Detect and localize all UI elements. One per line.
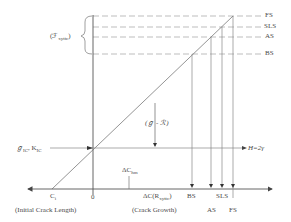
arrowhead-bs <box>190 184 194 188</box>
gamma-close: ) <box>68 32 70 40</box>
arrowhead-sls <box>220 184 224 188</box>
x-left-label: (Initial Crack Length) <box>15 207 76 214</box>
delta-c-r-close: ) <box>169 192 171 200</box>
level-label-as: AS <box>265 33 274 40</box>
arrowhead-as <box>209 184 213 188</box>
energy-release-line <box>52 16 233 189</box>
marker-label-as: AS <box>207 207 216 214</box>
level-lines <box>93 16 262 54</box>
k-ic-symbol: , K <box>28 144 37 152</box>
gic-arrowhead <box>87 146 93 150</box>
origin-label: 0 <box>91 194 95 201</box>
marker-label-sls: SLS <box>216 193 228 200</box>
delta-c-hm-label: ΔChm <box>122 167 138 175</box>
h-label: H=2γ <box>248 145 264 152</box>
level-label-sls: SLS <box>264 23 276 30</box>
gamma-bracket-label: (ℱxyttc) <box>50 33 71 41</box>
gic-kic-label: ℊIC, KIC <box>16 145 42 153</box>
difference-arrowhead <box>153 143 157 147</box>
h-arrowhead <box>242 146 247 150</box>
delta-c-r-label: ΔC(Rxyttc) <box>143 193 172 201</box>
drop-arrowheads <box>190 184 235 188</box>
gamma-sub: xyttc <box>58 36 68 41</box>
g-ic-symbol: ℊ <box>16 144 23 152</box>
delta-c-hm-sub: hm <box>131 170 137 175</box>
drop-lines <box>192 16 233 198</box>
gamma-brace <box>81 16 92 54</box>
delta-c-r-sub: xyttc <box>159 196 169 201</box>
marker-label-fs: FS <box>229 207 237 214</box>
c-i-sub: i <box>55 196 56 201</box>
marker-label-bs: BS <box>187 193 196 200</box>
level-label-bs: BS <box>265 50 274 57</box>
initial-crack-marker: Ci <box>50 193 56 201</box>
difference-label: (ℊ - ℛ) <box>145 120 169 127</box>
delta-c-symbol: ΔC <box>122 166 131 174</box>
level-label-fs: FS <box>265 12 273 19</box>
x-right-label: (Crack Growth) <box>132 207 177 214</box>
k-ic-sub: IC <box>37 148 42 153</box>
diagram-canvas <box>0 0 291 222</box>
arrowhead-fs <box>231 184 235 188</box>
delta-c-r-symbol: ΔC(R <box>143 192 159 200</box>
